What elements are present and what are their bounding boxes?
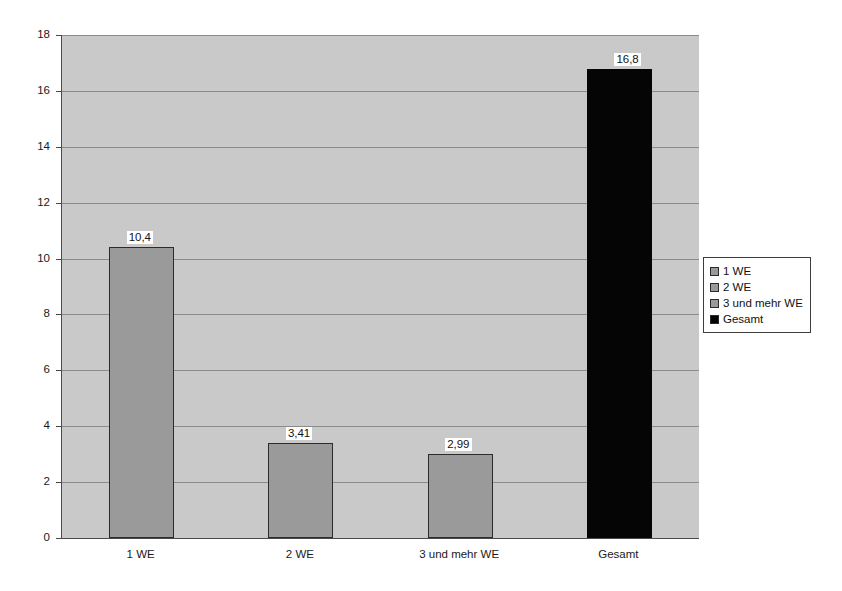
legend: 1 WE2 WE3 und mehr WEGesamt [703,257,811,333]
y-tick-label: 18 [10,29,50,41]
y-tick-label: 14 [10,141,50,153]
legend-item-label: 3 und mehr WE [723,297,803,309]
bar-value-label: 10,4 [127,231,153,244]
legend-item[interactable]: 2 WE [710,279,803,295]
legend-item[interactable]: Gesamt [710,311,803,327]
legend-item-label: 2 WE [723,281,751,293]
plot-inner [62,35,699,538]
legend-swatch-icon [710,283,719,292]
bar[interactable] [109,247,174,538]
legend-item[interactable]: 3 und mehr WE [710,295,803,311]
x-axis-label: 3 und mehr WE [380,548,539,560]
legend-item[interactable]: 1 WE [710,263,803,279]
legend-item-label: 1 WE [723,265,751,277]
x-axis-label: Gesamt [539,548,698,560]
bar-value-label: 2,99 [445,438,471,451]
y-tick-label: 4 [10,420,50,432]
legend-swatch-icon [710,267,719,276]
legend-swatch-icon [710,299,719,308]
y-tick-label: 16 [10,85,50,97]
x-axis-label: 2 WE [220,548,379,560]
plot-area [61,35,699,539]
y-tick-label: 8 [10,308,50,320]
y-tick-label: 6 [10,364,50,376]
y-tick-label: 12 [10,197,50,209]
gridline [62,35,699,36]
y-tick-label: 10 [10,253,50,265]
bar-chart: 024681012141618 1 WE2 WE3 und mehr WEGes… [0,0,842,591]
legend-swatch-icon [710,315,719,324]
bar[interactable] [587,69,652,538]
bar-value-label: 3,41 [286,427,312,440]
y-tick-label: 0 [10,532,50,544]
bar[interactable] [268,443,333,538]
y-tick-label: 2 [10,476,50,488]
x-axis-label: 1 WE [61,548,220,560]
bar[interactable] [428,454,493,538]
legend-item-label: Gesamt [723,313,763,325]
bar-value-label: 16,8 [614,53,640,66]
